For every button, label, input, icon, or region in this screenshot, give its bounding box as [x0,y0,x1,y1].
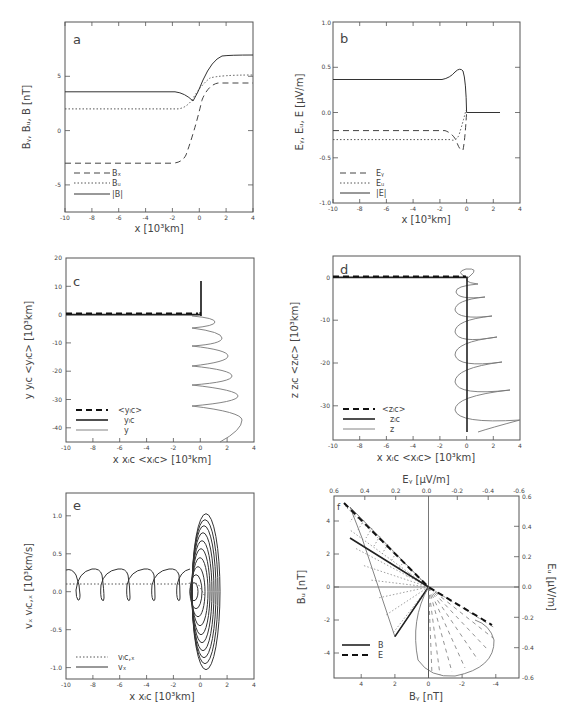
panel-f-right-ylabel: Eᵤ [μV/m] [546,563,557,611]
b-magnitude-curve [65,55,253,101]
legend-ey-label: Eᵧ [376,169,384,178]
e-magnitude-curve [333,69,500,112]
tick-label: 0 [58,311,62,318]
ez-curve [333,110,466,140]
tick-label: -10 [60,214,70,221]
tick-label: -6 [383,442,389,449]
tick-label: 0.4 [360,487,370,494]
tick-label: 0.5 [321,63,331,70]
tick-label: -4 [144,444,150,451]
panel-a-letter: a [73,32,81,47]
tick-label: 2 [393,680,397,687]
tick-label: -0.2 [451,487,463,494]
f-upper-fan [345,506,429,633]
legend-z-gc-mean-label: <zₗc> [382,405,405,414]
tick-label: -0.5 [50,626,62,633]
panel-c: -10 -8 -6 -4 -2 0 2 4 -40 -30 -20 -10 0 … [23,254,256,465]
tick-label: 0.6 [329,487,339,494]
tick-label: -6 [383,205,389,212]
tick-label: 0 [427,680,431,687]
tick-label: -1.0 [50,664,62,671]
z-trajectory [455,269,520,432]
bx-curve [65,83,253,163]
tick-label: 0.6 [522,493,532,500]
y-trajectory [192,316,242,442]
tick-label: -2 [170,681,176,688]
legend-e-label: |E| [376,189,386,198]
panel-a-ylabel: Bᵧ, Bᵤ, B [nT] [21,85,32,150]
panel-f: 4 2 0 -2 -4 0.6 0.4 0.2 0.0 -0.2 -0.4 -0… [296,474,557,702]
panel-d: -10 -8 -6 -4 -2 0 2 4 -30 -20 -10 0 x xₗ… [289,256,522,463]
figure-canvas: -10 -8 -6 -4 -2 0 2 4 -5 0 5 x [10³km] B… [0,0,572,720]
tick-label: 0.0 [422,487,432,494]
panel-d-xlabel: x xₗc <xₗc> [10³km] [377,452,476,463]
tick-label: -30 [52,396,62,403]
tick-label: -0.2 [522,614,534,621]
tick-label: -1.0 [319,199,331,206]
panel-a: -10 -8 -6 -4 -2 0 2 4 -5 0 5 x [10³km] B… [21,22,255,234]
panel-e-frame [66,493,254,679]
legend-ez-label: Eᵤ [376,179,384,188]
tick-label: 0.0 [522,583,532,590]
panel-c-xlabel: x xₗc <xₗc> [10³km] [113,454,212,465]
ey-curve [333,113,467,151]
tick-label: -4 [410,442,416,449]
tick-label: -10 [328,205,338,212]
tick-label: -6 [117,681,123,688]
tick-label: 2 [225,444,229,451]
tick-label: 4 [359,680,363,687]
tick-label: -10 [61,681,71,688]
tick-label: 4 [518,205,522,212]
tick-label: 0 [197,214,201,221]
tick-label: -4 [410,205,416,212]
tick-label: 4 [326,517,330,524]
tick-label: 0 [326,274,330,281]
tick-label: -2 [459,680,465,687]
legend-e-label-f: E [378,651,383,660]
panel-e-xlabel: x xₗc [10³km] [129,691,195,702]
tick-label: -6 [117,444,123,451]
tick-label: 20 [54,254,62,261]
tick-label: 2 [225,681,229,688]
panel-b-letter: b [340,31,348,46]
tick-label: 4 [518,442,522,449]
tick-label: 0.4 [522,523,532,530]
tick-label: 4 [252,681,256,688]
panel-e-letter: e [73,498,81,513]
tick-label: 4 [251,214,255,221]
tick-label: 0.5 [52,550,62,557]
tick-label: -10 [52,339,62,346]
tick-label: -4 [493,680,499,687]
tick-label: -4 [143,214,149,221]
tick-label: -0.4 [522,644,534,651]
vx-trochoid [66,569,190,601]
tick-label: 2 [491,205,495,212]
tick-label: 0 [465,442,469,449]
legend-vgc-x-label: vₗc,ₓ [118,653,135,662]
tick-label: 10 [54,283,62,290]
tick-label: 0.2 [522,553,532,560]
panel-f-ylabel: Bᵤ [nT] [296,570,307,604]
panel-c-frame [66,258,254,442]
panel-f-top-xlabel: Eᵧ [μV/m] [402,474,449,485]
tick-label: 2 [326,550,330,557]
tick-label: -2 [324,616,330,623]
panel-e: -10 -8 -6 -4 -2 0 2 4 -1.0 -0.5 0.0 0.5 … [23,493,256,702]
legend-y-gc-label: yₗc [124,416,134,425]
tick-label: 0 [326,583,330,590]
tick-label: 1.0 [321,19,331,26]
tick-label: 0.2 [391,487,401,494]
legend-vx-label: vₓ [118,663,127,672]
tick-label: -20 [52,367,62,374]
legend-z-gc-label: zₗc [390,415,400,424]
legend-y-gc-mean-label: <yₗc> [118,406,142,415]
legend-b-label: |B| [112,190,123,199]
tick-label: -20 [320,359,330,366]
tick-label: 0 [465,205,469,212]
tick-label: -30 [320,402,330,409]
tick-label: -10 [320,316,330,323]
panel-d-frame [333,256,520,440]
tick-label: -2 [170,444,176,451]
legend-y-label: y [124,426,129,435]
panel-f-xlabel: Bᵧ [nT] [409,691,443,702]
